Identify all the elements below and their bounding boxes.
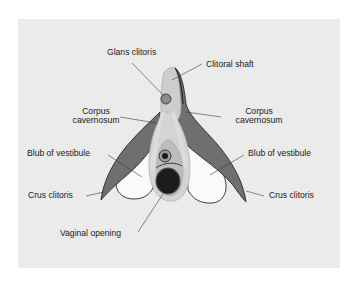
label-corpus-cavernosum-left: Corpus cavernosum [70, 107, 122, 126]
label-line: cavernosum [70, 116, 122, 125]
label-corpus-cavernosum-right: Corpus cavernosum [230, 107, 288, 126]
label-bulb-of-vestibule-right: Blub of vestibule [248, 149, 311, 158]
urethral-opening [162, 153, 168, 159]
label-crus-clitoris-right: Crus clitoris [269, 191, 314, 200]
anatomy-diagram [0, 0, 354, 283]
label-bulb-of-vestibule-left: Blub of vestibule [27, 149, 90, 158]
label-vaginal-opening: Vaginal opening [60, 229, 121, 238]
label-clitoral-shaft: Clitoral shaft [206, 60, 254, 69]
vaginal-opening [156, 168, 180, 194]
glans-clitoris [161, 94, 171, 104]
label-glans-clitoris: Glans clitoris [107, 48, 156, 57]
label-line: cavernosum [230, 116, 288, 125]
label-crus-clitoris-left: Crus clitoris [28, 191, 73, 200]
